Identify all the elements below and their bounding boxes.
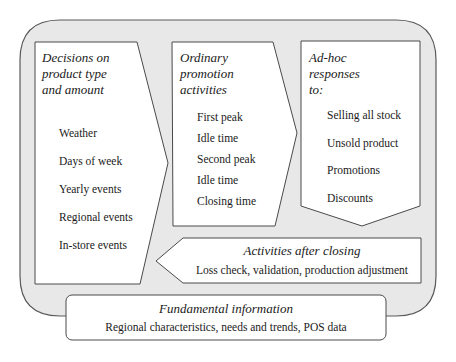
- adhoc-item: Promotions: [327, 165, 380, 177]
- ordinary-title: Ordinary promotion activities: [180, 50, 270, 98]
- after-closing-title: Activities after closing: [183, 244, 421, 257]
- ordinary-item: Closing time: [197, 196, 256, 208]
- ordinary-item: Second peak: [197, 154, 255, 166]
- adhoc-title: Ad-hoc responses to:: [309, 50, 409, 98]
- decisions-title: Decisions on product type and amount: [42, 50, 142, 98]
- fundamental-info-title: Fundamental information: [66, 302, 386, 315]
- decisions-title-line: product type: [42, 66, 142, 82]
- after-closing-description: Loss check, validation, production adjus…: [183, 265, 421, 277]
- adhoc-item: Selling all stock: [327, 110, 401, 122]
- ordinary-item: Idle time: [197, 175, 238, 187]
- decisions-item: In-store events: [59, 240, 127, 252]
- ordinary-title-line: activities: [180, 82, 270, 98]
- ordinary-item: Idle time: [197, 133, 238, 145]
- decisions-title-line: and amount: [42, 82, 142, 98]
- adhoc-title-line: responses: [309, 66, 409, 82]
- ordinary-title-line: promotion: [180, 66, 270, 82]
- decisions-item: Regional events: [59, 212, 133, 224]
- decisions-item: Yearly events: [59, 184, 121, 196]
- decisions-title-line: Decisions on: [42, 50, 142, 66]
- adhoc-title-line: Ad-hoc: [309, 50, 409, 66]
- fundamental-info-description: Regional characteristics, needs and tren…: [66, 322, 386, 334]
- decisions-item: Days of week: [59, 156, 122, 168]
- decisions-item: Weather: [59, 128, 97, 140]
- ordinary-item: First peak: [197, 112, 243, 124]
- adhoc-item: Unsold product: [327, 138, 398, 150]
- ordinary-title-line: Ordinary: [180, 50, 270, 66]
- adhoc-title-line: to:: [309, 82, 409, 98]
- adhoc-item: Discounts: [327, 193, 373, 205]
